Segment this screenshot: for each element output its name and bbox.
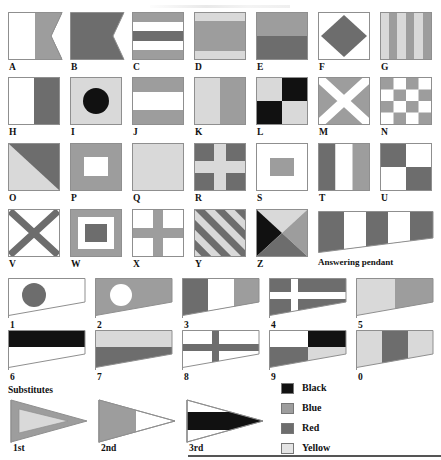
legend-label-red: Red (302, 422, 319, 433)
legend-swatch-red (281, 423, 294, 434)
flag-cell-h[interactable]: H (8, 77, 60, 125)
flag-label-x: X (133, 259, 140, 269)
flag-cell-w[interactable]: W (70, 209, 122, 257)
flag-cell-k[interactable]: K (194, 77, 246, 125)
flag-w (70, 209, 122, 257)
flag-label-n: N (381, 127, 388, 137)
flag-a-swallowtail (8, 12, 63, 60)
substitute-label-1st: 1st (13, 443, 25, 453)
flag-cell-f[interactable]: F (318, 12, 370, 60)
flag-label-w: W (71, 259, 81, 269)
flag-cell-g[interactable]: G (380, 12, 432, 60)
flag-h (8, 77, 60, 125)
flag-j (132, 77, 184, 125)
pennant-cell-1[interactable]: 1 (8, 278, 86, 318)
substitute-cell-1st[interactable]: 1st (10, 399, 88, 443)
pennant-cell-8[interactable]: 8 (182, 330, 260, 370)
pennant-6 (8, 330, 86, 370)
substitute-label-2nd: 2nd (101, 443, 116, 453)
pennant-4 (269, 278, 347, 318)
flag-cell-d[interactable]: D (194, 12, 246, 60)
flag-x (132, 209, 184, 257)
flag-cell-x[interactable]: X (132, 209, 184, 257)
flag-e (256, 12, 308, 60)
flag-cell-a[interactable]: A (8, 12, 63, 60)
flag-b-swallowtail (70, 12, 125, 60)
substitutes-heading: Substitutes (8, 385, 53, 395)
substitute-cell-3rd[interactable]: 3rd (186, 399, 264, 443)
flag-n (380, 77, 432, 125)
flag-cell-r[interactable]: R (194, 143, 246, 191)
flag-cell-answering-pendant[interactable]: Answering pendant (318, 211, 434, 255)
flag-d (194, 12, 246, 60)
flag-cell-y[interactable]: Y (194, 209, 246, 257)
pennant-2 (95, 278, 173, 318)
flag-cell-m[interactable]: M (318, 77, 370, 125)
flag-cell-q[interactable]: Q (132, 143, 184, 191)
flag-cell-i[interactable]: I (70, 77, 122, 125)
pennant-cell-6[interactable]: 6 (8, 330, 86, 370)
legend-swatch-blue (281, 403, 294, 414)
pennant-cell-4[interactable]: 4 (269, 278, 347, 318)
flag-cell-v[interactable]: V (8, 209, 60, 257)
flag-label-c: C (133, 62, 140, 72)
legend-label-blue: Blue (302, 402, 321, 413)
pennant-label-0: 0 (358, 372, 363, 382)
flag-label-f: F (319, 62, 325, 72)
flag-label-r: R (195, 193, 202, 203)
pennant-3 (182, 278, 260, 318)
flag-k (194, 77, 246, 125)
flag-label-a: A (9, 62, 16, 72)
flag-cell-n[interactable]: N (380, 77, 432, 125)
flag-cell-s[interactable]: S (256, 143, 308, 191)
answering-pendant-label: Answering pendant (318, 257, 393, 267)
flag-cell-j[interactable]: J (132, 77, 184, 125)
flag-u (380, 143, 432, 191)
pennant-cell-7[interactable]: 7 (95, 330, 173, 370)
substitute-pennant-3rd (186, 399, 264, 443)
pennant-9 (269, 330, 347, 370)
flag-cell-t[interactable]: T (318, 143, 370, 191)
legend-swatch-black (281, 383, 294, 394)
flag-v (8, 209, 60, 257)
flag-label-o: O (9, 193, 16, 203)
flag-cell-c[interactable]: C (132, 12, 184, 60)
flag-y (194, 209, 246, 257)
flag-q (132, 143, 184, 191)
flag-m (318, 77, 370, 125)
flag-s (256, 143, 308, 191)
pennant-cell-9[interactable]: 9 (269, 330, 347, 370)
flag-r (194, 143, 246, 191)
flag-cell-b[interactable]: B (70, 12, 125, 60)
flag-o (8, 143, 60, 191)
flag-cell-z[interactable]: Z (256, 209, 308, 257)
pennant-cell-2[interactable]: 2 (95, 278, 173, 318)
pennant-cell-0[interactable]: 0 (356, 330, 434, 370)
flag-i (70, 77, 122, 125)
flag-label-i: I (71, 127, 75, 137)
flag-label-h: H (9, 127, 16, 137)
legend-label-yellow: Yellow (302, 442, 330, 453)
pennant-label-2: 2 (97, 320, 102, 330)
flag-cell-p[interactable]: P (70, 143, 122, 191)
flag-l (256, 77, 308, 125)
flag-label-m: M (319, 127, 328, 137)
pennant-8 (182, 330, 260, 370)
flag-t (318, 143, 370, 191)
flag-p (70, 143, 122, 191)
bottom-rule (188, 455, 441, 457)
pennant-1 (8, 278, 86, 318)
pennant-cell-5[interactable]: 5 (356, 278, 434, 318)
substitute-cell-2nd[interactable]: 2nd (98, 399, 176, 443)
flag-cell-e[interactable]: E (256, 12, 308, 60)
flag-label-z: Z (257, 259, 263, 269)
flag-cell-o[interactable]: O (8, 143, 60, 191)
flag-cell-l[interactable]: L (256, 77, 308, 125)
substitute-label-3rd: 3rd (189, 443, 203, 453)
flag-label-q: Q (133, 193, 140, 203)
flag-z (256, 209, 308, 257)
pennant-7 (95, 330, 173, 370)
flag-c (132, 12, 184, 60)
flag-cell-u[interactable]: U (380, 143, 432, 191)
pennant-cell-3[interactable]: 3 (182, 278, 260, 318)
